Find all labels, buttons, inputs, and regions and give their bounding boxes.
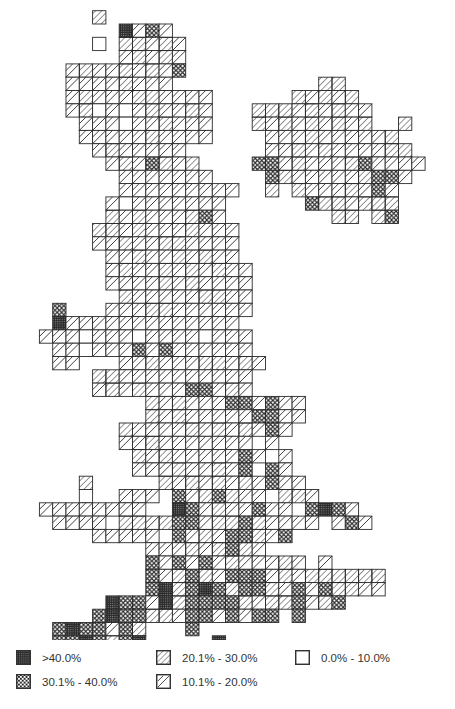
map-cell bbox=[79, 330, 92, 343]
map-cell bbox=[239, 543, 252, 556]
map-cell bbox=[172, 144, 185, 157]
map-cell bbox=[305, 157, 318, 170]
map-cell bbox=[172, 357, 185, 370]
map-cell bbox=[212, 596, 225, 609]
map-cell bbox=[172, 37, 185, 50]
map-cell bbox=[93, 144, 106, 157]
map-cell bbox=[146, 144, 159, 157]
map-cell bbox=[93, 370, 106, 383]
map-cell bbox=[133, 37, 146, 50]
map-cell bbox=[159, 237, 172, 250]
map-cell bbox=[133, 250, 146, 263]
map-cell bbox=[146, 396, 159, 409]
map-cell bbox=[93, 117, 106, 130]
map-cell bbox=[292, 170, 305, 183]
map-cell bbox=[279, 596, 292, 609]
map-cell bbox=[212, 436, 225, 449]
map-cell bbox=[159, 357, 172, 370]
map-cell bbox=[345, 569, 358, 582]
map-cell bbox=[146, 556, 159, 569]
map-cell bbox=[279, 450, 292, 463]
map-cell bbox=[412, 157, 425, 170]
map-cell bbox=[93, 343, 106, 356]
map-cell bbox=[119, 24, 132, 37]
map-cell bbox=[252, 357, 265, 370]
map-cell bbox=[252, 556, 265, 569]
map-cell bbox=[226, 317, 239, 330]
map-cell bbox=[119, 250, 132, 263]
map-cell bbox=[332, 91, 345, 104]
map-cell bbox=[79, 636, 92, 640]
map-cell bbox=[332, 184, 345, 197]
map-cell bbox=[279, 556, 292, 569]
map-cell bbox=[146, 210, 159, 223]
map-cell bbox=[159, 37, 172, 50]
map-cell bbox=[252, 609, 265, 622]
map-cell bbox=[292, 490, 305, 503]
map-cell bbox=[212, 263, 225, 276]
map-cell bbox=[266, 170, 279, 183]
map-cell bbox=[133, 503, 146, 516]
map-cell bbox=[186, 476, 199, 489]
map-cell bbox=[266, 503, 279, 516]
diagonal-light-swatch-icon bbox=[156, 674, 171, 689]
map-cell bbox=[212, 556, 225, 569]
map-cell bbox=[252, 596, 265, 609]
map-cell bbox=[385, 184, 398, 197]
map-cell bbox=[212, 463, 225, 476]
map-cell bbox=[159, 343, 172, 356]
map-cell bbox=[106, 330, 119, 343]
map-cell bbox=[345, 516, 358, 529]
map-cell bbox=[53, 330, 66, 343]
map-cell bbox=[252, 490, 265, 503]
map-cell bbox=[159, 51, 172, 64]
map-cell bbox=[133, 210, 146, 223]
map-cell bbox=[212, 210, 225, 223]
map-cell bbox=[319, 157, 332, 170]
map-cell bbox=[239, 569, 252, 582]
map-cell bbox=[172, 596, 185, 609]
map-cell bbox=[106, 343, 119, 356]
legend-item-20-30: 20.1% - 30.0% bbox=[156, 650, 257, 665]
map-cell bbox=[359, 516, 372, 529]
map-cell bbox=[133, 157, 146, 170]
map-cell bbox=[319, 77, 332, 90]
map-cell bbox=[133, 609, 146, 622]
map-cell bbox=[199, 476, 212, 489]
map-cell bbox=[292, 396, 305, 409]
map-cell bbox=[279, 117, 292, 130]
map-cell bbox=[146, 370, 159, 383]
map-cell bbox=[159, 77, 172, 90]
map-cell bbox=[266, 396, 279, 409]
map-cell bbox=[186, 303, 199, 316]
map-cell bbox=[66, 357, 79, 370]
map-cell bbox=[106, 144, 119, 157]
map-cell bbox=[66, 104, 79, 117]
map-cell bbox=[93, 91, 106, 104]
map-cell bbox=[199, 370, 212, 383]
map-cell bbox=[279, 144, 292, 157]
map-cell bbox=[239, 303, 252, 316]
map-cell bbox=[172, 543, 185, 556]
map-cell bbox=[226, 410, 239, 423]
map-cell bbox=[146, 24, 159, 37]
map-cell bbox=[172, 184, 185, 197]
map-cell bbox=[226, 596, 239, 609]
map-cell bbox=[266, 463, 279, 476]
map-cell bbox=[252, 104, 265, 117]
map-cell bbox=[146, 330, 159, 343]
map-cell bbox=[93, 516, 106, 529]
map-cell bbox=[186, 104, 199, 117]
map-cell bbox=[172, 104, 185, 117]
map-cell bbox=[53, 317, 66, 330]
map-cell bbox=[239, 556, 252, 569]
map-cell bbox=[159, 596, 172, 609]
map-cell bbox=[119, 370, 132, 383]
map-cell bbox=[239, 609, 252, 622]
map-cell bbox=[133, 130, 146, 143]
legend-label: 0.0% - 10.0% bbox=[321, 652, 390, 664]
map-cell bbox=[172, 330, 185, 343]
map-cell bbox=[79, 490, 92, 503]
map-cell bbox=[239, 596, 252, 609]
map-cell bbox=[199, 569, 212, 582]
